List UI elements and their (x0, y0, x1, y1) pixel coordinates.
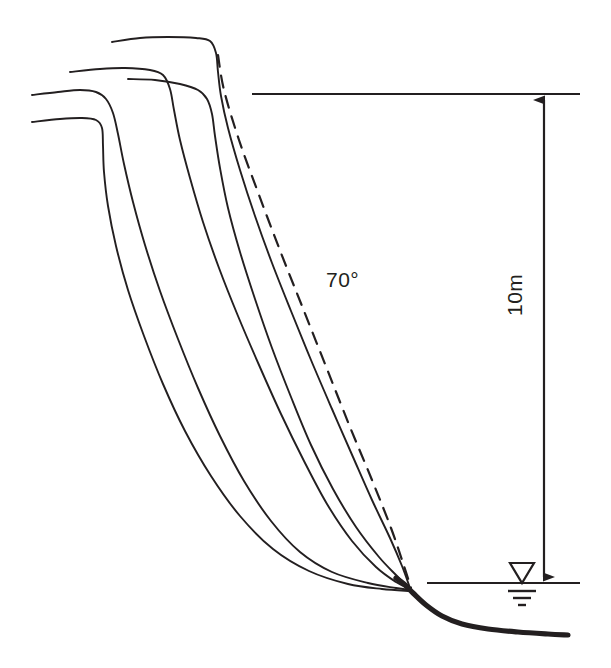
series-path-6 (396, 578, 568, 635)
slope-angle-label: 70° (326, 268, 359, 292)
depth-dimension-label: 10m (503, 274, 527, 316)
water-table-triangle-icon (510, 563, 534, 583)
series-path-4 (32, 90, 410, 590)
series-path-3 (128, 79, 410, 589)
figure-canvas (0, 0, 611, 668)
series-path-1 (112, 37, 410, 588)
deflection-profiles-group (32, 37, 568, 635)
series-path-0 (218, 55, 411, 588)
series-path-5 (32, 118, 410, 591)
slope-cross-section-figure: 70° 10m (0, 0, 611, 668)
